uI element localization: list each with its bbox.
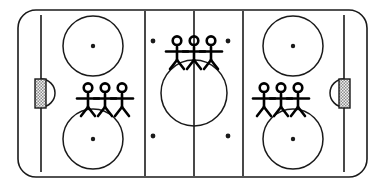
left-goal-net — [35, 79, 46, 108]
faceoff-circle-upper-right-dot — [291, 44, 295, 48]
rink-canvas — [0, 0, 385, 195]
faceoff-circle-lower-left-dot — [91, 137, 95, 141]
faceoff-circle-lower-right-dot — [291, 137, 295, 141]
rink-boundary — [18, 10, 367, 177]
neutral-dot-upper-right — [226, 39, 231, 44]
rink-surface — [18, 10, 367, 177]
faceoff-circle-upper-left-dot — [91, 44, 95, 48]
neutral-dot-lower-right — [226, 134, 231, 139]
right-goal-net — [339, 79, 350, 108]
hockey-rink-diagram — [0, 0, 385, 195]
neutral-dot-lower-left — [151, 134, 156, 139]
neutral-dot-upper-left — [151, 39, 156, 44]
